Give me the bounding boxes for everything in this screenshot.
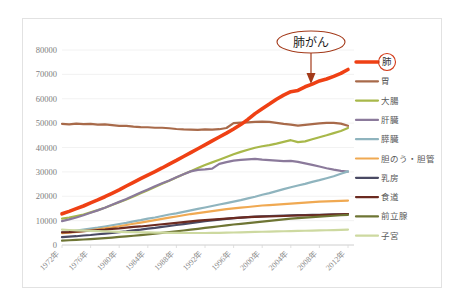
legend-item-0[interactable]: 肺 xyxy=(356,54,396,71)
legend-item-1[interactable]: 胃 xyxy=(356,76,390,86)
x-tick-label: 2012年 xyxy=(323,248,347,272)
legend-label: 肺 xyxy=(382,56,392,67)
y-tick-label: 70000 xyxy=(36,69,57,79)
legend-item-7[interactable]: 食道 xyxy=(356,192,399,202)
y-tick-label: 30000 xyxy=(36,167,57,177)
chart-legend: 肺胃大腸肝臓膵臓胆のう・胆管乳房食道前立腺子宮 xyxy=(356,54,435,241)
legend-item-6[interactable]: 乳房 xyxy=(356,173,399,183)
x-tick-label: 1976年 xyxy=(66,248,90,272)
x-tick-label: 1996年 xyxy=(209,248,233,272)
y-tick-label: 50000 xyxy=(36,118,57,128)
x-tick-label: 1980年 xyxy=(95,248,119,272)
legend-label: 膵臓 xyxy=(381,134,399,144)
cancer-mortality-line-chart: 8000070000600005000040000300002000010000… xyxy=(0,0,466,307)
legend-item-5[interactable]: 胆のう・胆管 xyxy=(356,154,435,164)
y-tick-label: 0 xyxy=(53,240,57,250)
x-tick-label: 1992年 xyxy=(180,248,204,272)
callout-label: 肺がん xyxy=(293,35,329,50)
x-tick-label: 1988年 xyxy=(152,248,176,272)
legend-item-3[interactable]: 肝臓 xyxy=(356,115,399,125)
legend-label: 胆のう・胆管 xyxy=(381,154,435,164)
x-tick-label: 1972年 xyxy=(37,248,61,272)
legend-label: 子宮 xyxy=(381,231,399,241)
x-tick-label: 1984年 xyxy=(123,248,147,272)
legend-item-2[interactable]: 大腸 xyxy=(356,96,399,106)
legend-item-4[interactable]: 膵臓 xyxy=(356,134,399,144)
x-tick-label: 2000年 xyxy=(238,248,262,272)
y-tick-label: 80000 xyxy=(36,45,57,55)
legend-label: 乳房 xyxy=(381,173,399,183)
y-tick-label: 40000 xyxy=(36,143,57,153)
series-lines xyxy=(62,70,348,241)
legend-label: 胃 xyxy=(381,76,390,86)
series-line-2 xyxy=(62,128,348,219)
legend-label: 肝臓 xyxy=(381,115,399,125)
legend-item-9[interactable]: 子宮 xyxy=(356,231,399,241)
y-tick-label: 60000 xyxy=(36,94,57,104)
x-tick-label: 2008年 xyxy=(295,248,319,272)
legend-label: 前立腺 xyxy=(381,211,408,221)
y-tick-label: 10000 xyxy=(36,216,57,226)
x-axis-tick-labels: 1972年1976年1980年1984年1988年1992年1996年2000年… xyxy=(37,245,348,272)
legend-label: 食道 xyxy=(381,192,399,202)
legend-label: 大腸 xyxy=(381,96,399,106)
y-tick-label: 20000 xyxy=(36,191,57,201)
y-axis-tick-labels: 8000070000600005000040000300002000010000… xyxy=(36,45,57,250)
x-tick-label: 2004年 xyxy=(266,248,290,272)
legend-item-8[interactable]: 前立腺 xyxy=(356,211,408,221)
